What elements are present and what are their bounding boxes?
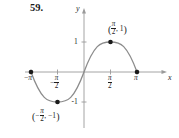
sine-graph-figure (0, 0, 179, 138)
y-tick-label-minus-1: -1 (72, 98, 78, 106)
x-tick-label-pi: π (134, 74, 138, 82)
y-axis-label: y (76, 4, 80, 13)
minimum-point-label: (−π2, −1) (32, 108, 59, 124)
x-tick-label-minus-pi: −π (24, 74, 32, 82)
x-axis-label: x (168, 73, 172, 82)
x-axis (25, 70, 167, 74)
y-tick-label-1: 1 (74, 38, 78, 46)
x-tick-label-pi-over-2: π2 (108, 75, 113, 91)
x-tick-label-minus-pi-over-2: −π2 (50, 75, 59, 91)
minimum-point-dot (55, 100, 60, 105)
maximum-point-label: (π2, 1) (108, 21, 127, 37)
maximum-point-dot (108, 40, 113, 45)
